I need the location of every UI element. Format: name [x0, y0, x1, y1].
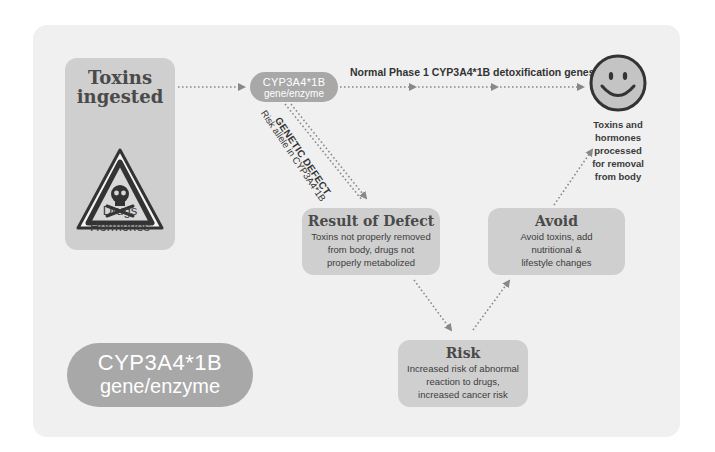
outcome-caption: Toxins and hormones processed for remova…	[588, 118, 648, 183]
result-of-defect-box: Result of Defect Toxins not properly rem…	[302, 208, 440, 275]
toxins-title: Toxins ingested	[65, 68, 175, 106]
toxins-examples: Drugs Hormones	[65, 203, 175, 235]
risk-box: Risk Increased risk of abnormal reaction…	[398, 340, 528, 407]
toxins-ingested-box: Toxins ingested Drugs Hormones	[65, 58, 175, 250]
smiley-face-icon	[588, 53, 648, 113]
normal-path-label: Normal Phase 1 CYP3A4*1B detoxification …	[350, 66, 595, 78]
gene-enzyme-pill-small: CYP3A4*1B gene/enzyme	[250, 72, 338, 102]
avoid-box: Avoid Avoid toxins, add nutritional & li…	[488, 208, 625, 275]
gene-enzyme-pill-large: CYP3A4*1B gene/enzyme	[67, 343, 253, 407]
